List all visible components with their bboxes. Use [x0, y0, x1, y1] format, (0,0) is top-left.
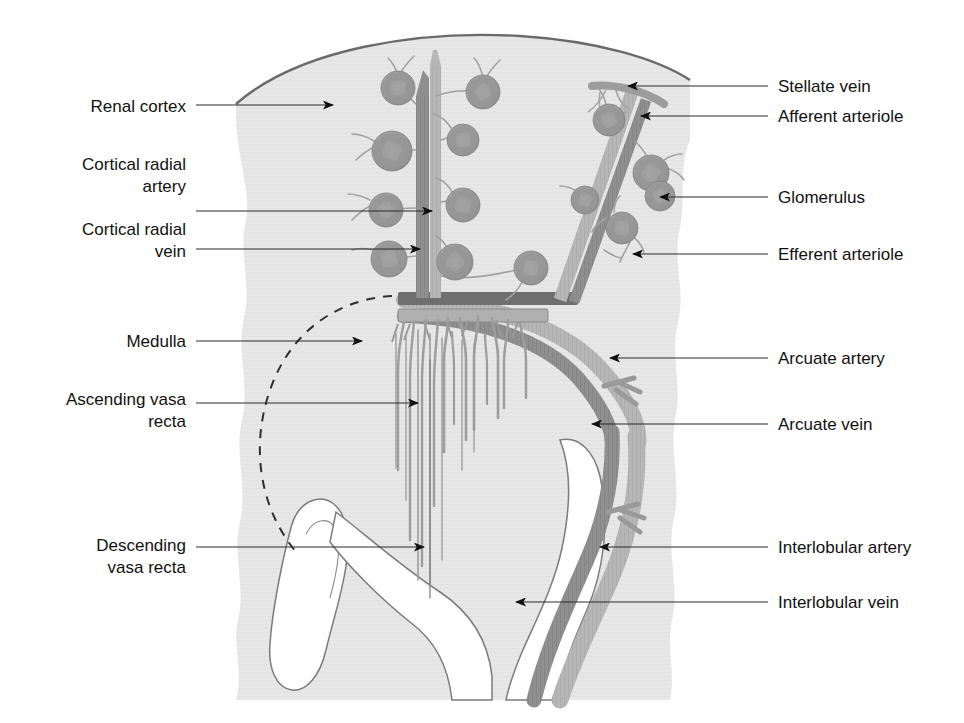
label-stellate-vein: Stellate vein [778, 77, 871, 96]
label-descending-vasa-recta: Descendingvasa recta [96, 536, 186, 577]
cortical-radial-artery-vessel [416, 96, 429, 298]
glomerulus-13 [571, 186, 599, 214]
label-renal-cortex: Renal cortex [91, 97, 187, 116]
label-cortical-radial-vein: Cortical radialvein [82, 220, 186, 261]
renal-vasculature-diagram: Renal cortexCortical radialarteryCortica… [0, 0, 964, 723]
label-cortical-radial-artery: Cortical radialartery [82, 155, 186, 196]
label-arcuate-artery: Arcuate artery [778, 349, 885, 368]
label-medulla: Medulla [126, 332, 186, 351]
diagram-stage: Renal cortexCortical radialarteryCortica… [0, 0, 964, 723]
label-arcuate-vein: Arcuate vein [778, 415, 873, 434]
label-afferent-arteriole: Afferent arteriole [778, 107, 903, 126]
glomerulus-3 [447, 124, 479, 156]
label-glomerulus: Glomerulus [778, 188, 865, 207]
arcuate-junction-light [398, 309, 548, 322]
glomerulus-8 [514, 251, 548, 285]
glomerulus-0 [381, 71, 415, 105]
glomerulus-12 [645, 181, 675, 211]
glomerulus-7 [437, 244, 473, 280]
label-efferent-arteriole: Efferent arteriole [778, 245, 903, 264]
label-interlobular-artery: Interlobular artery [778, 538, 912, 557]
label-ascending-vasa-recta: Ascending vasarecta [66, 390, 187, 431]
glomerulus-6 [371, 241, 407, 277]
glomerulus-5 [446, 188, 480, 222]
glomerulus-11 [606, 212, 638, 244]
glomerulus-1 [466, 75, 500, 109]
glomerulus-4 [369, 193, 403, 227]
label-interlobular-vein: Interlobular vein [778, 593, 899, 612]
glomerulus-9 [593, 104, 625, 136]
glomerulus-2 [372, 131, 412, 171]
